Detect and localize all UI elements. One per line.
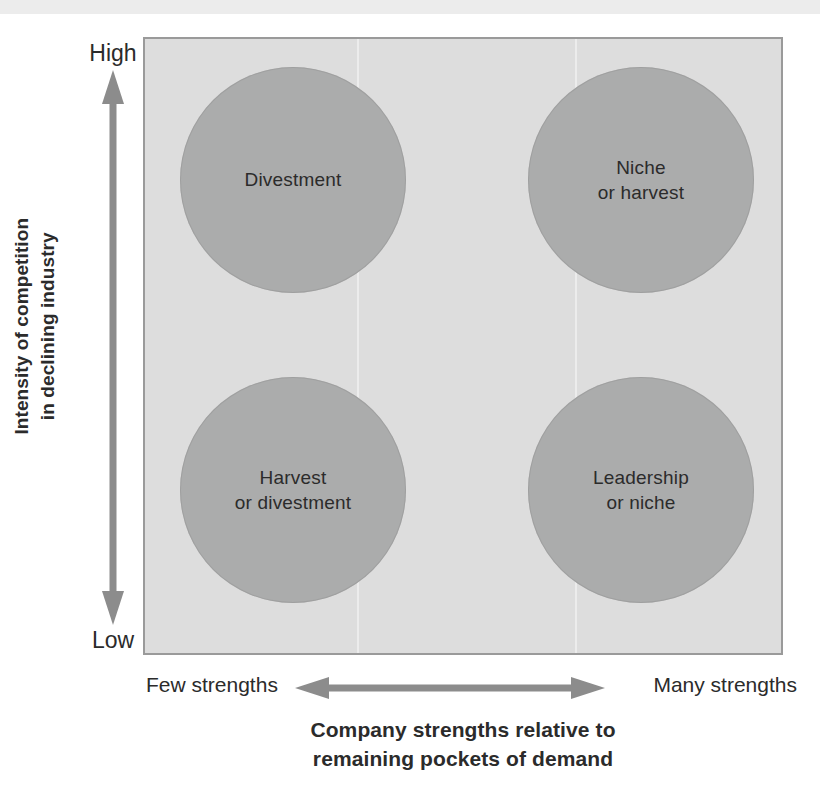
scan-artifact-strip bbox=[0, 0, 820, 14]
y-axis-title: Intensity of competition in declining in… bbox=[9, 116, 61, 536]
x-axis-high-label: Many strengths bbox=[653, 673, 797, 697]
quadrant-label-line1: Harvest bbox=[235, 465, 352, 490]
x-axis-title: Company strengths relative to remaining … bbox=[143, 716, 783, 774]
quadrant-label-line1: Niche bbox=[598, 155, 684, 180]
quadrant-bubble-bottom-left[interactable]: Harvest or divestment bbox=[180, 377, 406, 603]
quadrant-bubble-bottom-right[interactable]: Leadership or niche bbox=[528, 377, 754, 603]
quadrant-label-line2: or harvest bbox=[598, 180, 684, 205]
quadrant-label-line2: or niche bbox=[593, 490, 689, 515]
quadrant-bubble-top-left[interactable]: Divestment bbox=[180, 67, 406, 293]
x-axis-low-label: Few strengths bbox=[146, 673, 278, 697]
y-axis-title-line2: in declining industry bbox=[35, 116, 61, 536]
quadrant-label-line1: Leadership bbox=[593, 465, 689, 490]
strategy-matrix-figure: High Low Intensity of competition in dec… bbox=[0, 0, 820, 797]
quadrant-label-line2: or divestment bbox=[235, 490, 352, 515]
plot-area: Divestment Niche or harvest Harvest or d… bbox=[143, 37, 783, 655]
quadrant-label-line1: Divestment bbox=[244, 167, 341, 192]
y-axis-title-line1: Intensity of competition bbox=[9, 116, 35, 536]
x-axis-title-line2: remaining pockets of demand bbox=[143, 745, 783, 774]
y-axis-double-arrow bbox=[97, 70, 129, 625]
x-axis-title-line1: Company strengths relative to bbox=[143, 716, 783, 745]
quadrant-bubble-top-right[interactable]: Niche or harvest bbox=[528, 67, 754, 293]
x-axis-double-arrow bbox=[295, 672, 605, 704]
